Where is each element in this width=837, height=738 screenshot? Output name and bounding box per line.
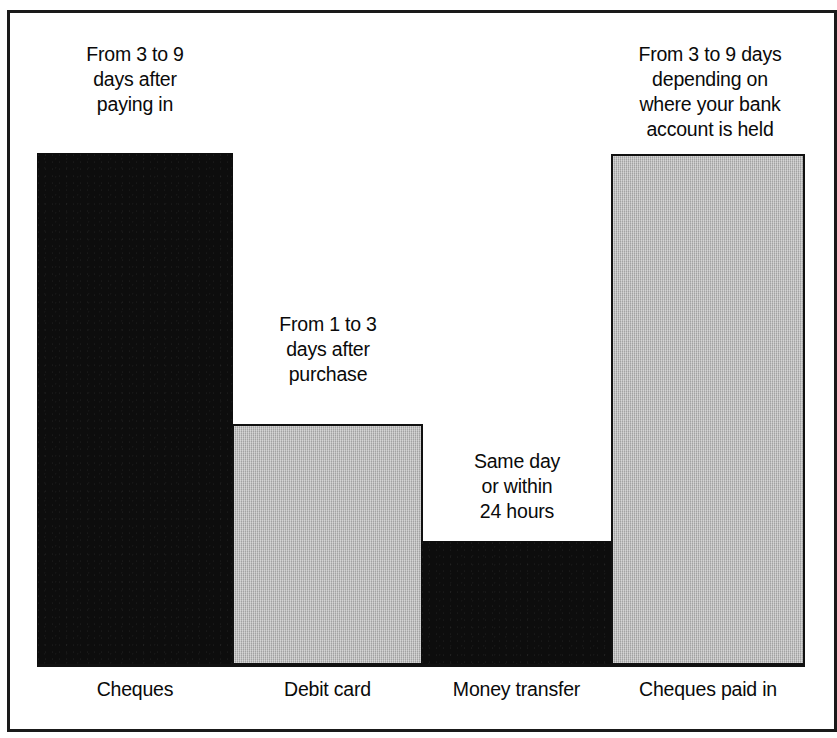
category-label-cheques-paid-in: Cheques paid in xyxy=(611,676,805,702)
category-label-money-transfer: Money transfer xyxy=(421,676,612,702)
bar-debit-card xyxy=(232,424,423,665)
category-label-cheques: Cheques xyxy=(37,676,233,702)
bar-note-cheques: From 3 to 9 days after paying in xyxy=(30,42,240,117)
axis-baseline xyxy=(37,664,805,667)
category-label-debit-card: Debit card xyxy=(232,676,423,702)
bar-note-cheques-paid-in: From 3 to 9 days depending on where your… xyxy=(602,42,818,142)
bar-money-transfer xyxy=(421,541,612,665)
bar-cheques xyxy=(37,153,233,665)
bar-note-money-transfer: Same day or within 24 hours xyxy=(417,449,617,524)
bar-cheques-paid-in xyxy=(611,154,805,665)
bar-note-debit-card: From 1 to 3 days after purchase xyxy=(228,312,428,387)
